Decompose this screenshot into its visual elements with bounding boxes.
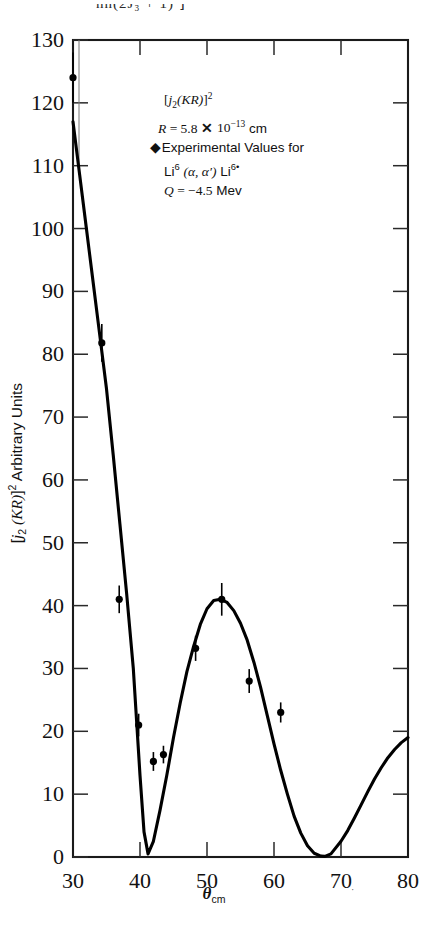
y-axis-tick-label: 0 [53,844,64,869]
data-point-marker [246,677,253,684]
y-axis-tick-label: 80 [42,341,64,366]
annotation-line-1: [j2(KR)]2 [150,86,304,115]
y-axis-tick-label: 20 [42,718,64,743]
x-axis-label: θcm [0,884,428,905]
data-point-marker [150,758,157,765]
data-point-marker [160,751,167,758]
annotation-line-2: R = 5.8 ✕ 10−13 cm [150,115,304,138]
annotation-block: [j2(KR)]2 R = 5.8 ✕ 10−13 cm ◆ Experimen… [150,86,304,201]
y-axis-tick-label: 130 [31,27,64,52]
y-axis-tick-label: 90 [42,278,64,303]
y-axis-tick-label: 40 [42,593,64,618]
annotation-line-5: Q = −4.5 Mev [150,181,304,201]
y-axis-tick-label: 100 [31,216,64,241]
y-axis-tick-label: 30 [42,655,64,680]
y-axis-tick-label: 50 [42,530,64,555]
data-point-marker [192,645,199,652]
annotation-line-4: Li6 (α, α′) Li6• [150,157,304,181]
data-point-marker [135,721,142,728]
y-axis-tick-label: 10 [42,781,64,806]
data-point-marker [218,596,225,603]
data-point-marker [69,74,76,81]
y-axis-tick-label: 70 [42,404,64,429]
theory-curve [73,122,408,857]
data-point-marker [116,596,123,603]
data-point-marker [277,709,284,716]
data-point-marker [98,339,105,346]
y-axis-tick-label: 60 [42,467,64,492]
y-axis-tick-label: 110 [32,153,64,178]
errorbar-marker-icon: ◆ [150,138,158,158]
figure-root: nn(2J₃ + 1) ⌋ 01020304050607080901001101… [0,0,428,926]
annotation-line-3: ◆ Experimental Values for [150,138,304,158]
y-axis-tick-label: 120 [31,90,64,115]
